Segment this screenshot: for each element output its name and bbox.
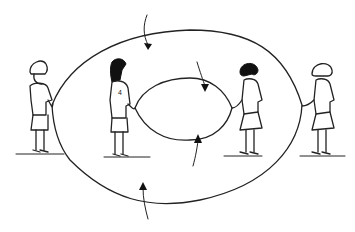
child-far-left bbox=[30, 61, 53, 152]
arrow-top-inner bbox=[197, 62, 209, 92]
outer-rope bbox=[52, 30, 302, 204]
shirt bbox=[30, 83, 52, 115]
child-inner-right bbox=[232, 63, 262, 154]
illustration-svg: 4 bbox=[0, 0, 355, 232]
hair-light bbox=[312, 64, 332, 76]
shirt bbox=[110, 81, 130, 118]
child-inner-left: 4 bbox=[110, 59, 135, 156]
inner-rope bbox=[135, 78, 232, 140]
arrow-top-outer bbox=[144, 15, 152, 50]
shirt-number: 4 bbox=[118, 89, 122, 96]
hair-light bbox=[30, 61, 47, 74]
jump-rope-illustration: 4 bbox=[0, 0, 355, 232]
hair-dark bbox=[240, 63, 258, 76]
hair-dark bbox=[111, 59, 127, 82]
shirt bbox=[314, 79, 334, 114]
shirt bbox=[242, 79, 262, 114]
child-far-right bbox=[302, 64, 334, 154]
